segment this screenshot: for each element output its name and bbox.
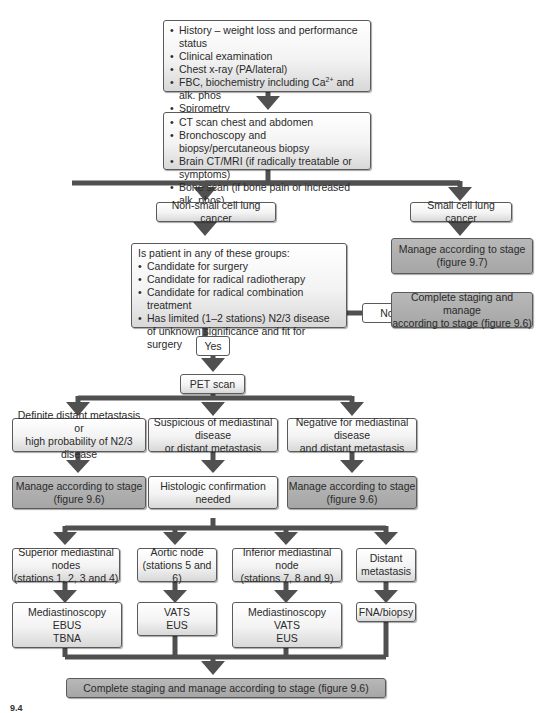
workup-item: History – weight loss and performance st… [170, 24, 364, 50]
figure-label: 9.4 [10, 703, 23, 713]
workup-item: Clinical examination [170, 50, 364, 63]
question-title: Is patient in any of these groups: [138, 247, 340, 260]
patient-groups-question-box: Is patient in any of these groups: Candi… [131, 243, 347, 328]
sclc-box: Small cell lung cancer [410, 202, 512, 222]
site-aortic-node: Aortic node (stations 5 and 6) [137, 548, 217, 582]
pet-result-distant-metastasis: Definite distant metastasis or high prob… [12, 418, 146, 452]
question-item: Has limited (1–2 stations) N2/3 disease … [138, 312, 340, 351]
initial-workup-box: History – weight loss and performance st… [163, 20, 371, 92]
workup-item: Bronchoscopy and biopsy/percutaneous bio… [170, 129, 364, 155]
workup-item: Brain CT/MRI (if radically treatable or … [170, 155, 364, 181]
site-superior-mediastinal: Superior mediastinal nodes (stations 1, … [12, 548, 120, 582]
no-outcome-box: Complete staging and manage according to… [391, 292, 533, 328]
manage-stage-box-left: Manage according to stage (figure 9.6) [12, 476, 146, 509]
site-distant-metastasis: Distant metastasis [356, 548, 416, 582]
final-staging-box: Complete staging and manage according to… [66, 678, 386, 698]
pet-result-suspicious: Suspicious of mediastinal disease or dis… [148, 418, 278, 452]
question-item: Candidate for radical radiotherapy [138, 273, 340, 286]
workup-item: FBC, biochemistry including Ca2+ and alk… [170, 76, 364, 102]
lung-cancer-staging-flowchart: History – weight loss and performance st… [0, 0, 546, 713]
procedure-distant: FNA/biopsy [356, 602, 416, 622]
further-workup-box: CT scan chest and abdomen Bronchoscopy a… [163, 112, 371, 170]
pet-result-negative: Negative for mediastinal disease and dis… [287, 418, 417, 452]
histologic-confirmation-box: Histologic confirmation needed [148, 476, 278, 509]
sclc-manage-box: Manage according to stage (figure 9.7) [391, 238, 533, 274]
workup-item: Chest x-ray (PA/lateral) [170, 63, 364, 76]
question-item: Candidate for radical combination treatm… [138, 286, 340, 312]
workup-item: CT scan chest and abdomen [170, 116, 364, 129]
nsclc-box: Non-small cell lung cancer [156, 202, 276, 222]
yes-label: Yes [196, 336, 230, 356]
question-item: Candidate for surgery [138, 260, 340, 273]
site-inferior-mediastinal: Inferior mediastinal node (stations 7, 8… [232, 548, 342, 582]
pet-scan-box: PET scan [180, 374, 245, 394]
procedure-superior: Mediastinoscopy EBUS TBNA [12, 602, 122, 648]
procedure-inferior: Mediastinoscopy VATS EUS [232, 602, 342, 648]
manage-stage-box-right: Manage according to stage (figure 9.6) [287, 476, 417, 509]
procedure-aortic: VATS EUS [137, 602, 217, 636]
